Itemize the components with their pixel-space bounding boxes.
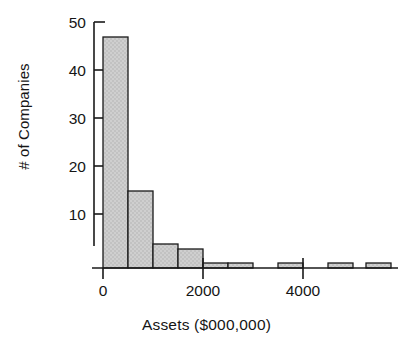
bar-bin-4 [178,249,203,268]
bar-bin-2 [128,191,153,268]
bars [103,37,391,268]
histogram-figure: # of Companies Assets ($000,000) 50 40 3… [0,0,413,357]
plot-canvas [0,0,413,357]
bar-bin-3 [153,244,178,268]
bar-bin-1 [103,37,128,268]
